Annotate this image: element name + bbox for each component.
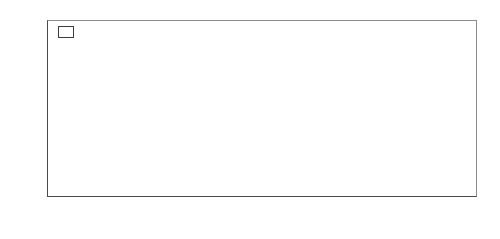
plot-area bbox=[47, 20, 477, 197]
chart-legend bbox=[58, 26, 74, 38]
stacked-area-chart bbox=[0, 0, 500, 239]
stacked-area-series-group bbox=[48, 21, 476, 196]
